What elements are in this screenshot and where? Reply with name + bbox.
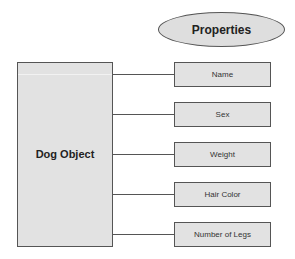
- property-hair-color: Hair Color: [174, 182, 271, 207]
- property-label: Hair Color: [204, 190, 240, 199]
- properties-ellipse: Properties: [158, 12, 285, 47]
- connector-name: [113, 74, 174, 75]
- properties-heading: Properties: [192, 23, 251, 37]
- dog-object-box: Dog Object: [17, 62, 113, 247]
- connector-number-of-legs: [113, 234, 174, 235]
- property-label: Number of Legs: [194, 230, 251, 239]
- property-number-of-legs: Number of Legs: [174, 222, 271, 247]
- dog-object-properties-diagram: Properties Dog Object Name Sex Weight Ha…: [0, 0, 295, 259]
- property-name: Name: [174, 62, 271, 87]
- property-label: Weight: [210, 150, 235, 159]
- property-label: Sex: [216, 110, 230, 119]
- property-sex: Sex: [174, 102, 271, 127]
- property-label: Name: [212, 70, 233, 79]
- property-weight: Weight: [174, 142, 271, 167]
- connector-hair-color: [113, 194, 174, 195]
- connector-sex: [113, 114, 174, 115]
- connector-weight: [113, 154, 174, 155]
- dog-object-label: Dog Object: [36, 148, 95, 160]
